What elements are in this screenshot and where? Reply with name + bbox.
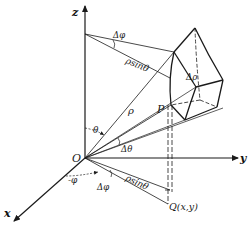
theta-label: θ bbox=[93, 125, 99, 135]
point-P-label: P bbox=[156, 103, 165, 116]
rho-label: ρ bbox=[127, 105, 134, 116]
origin-label: O bbox=[72, 152, 81, 165]
delta-phi-top-label: Δφ bbox=[112, 30, 125, 40]
neg-phi-label: -φ bbox=[68, 175, 78, 185]
delta-phi-top-arc bbox=[113, 40, 115, 48]
y-axis-label: y bbox=[239, 152, 248, 165]
point-Q-label: Q(x,y) bbox=[169, 201, 198, 212]
rho-sin-theta-bottom-label: ρsinθ bbox=[123, 172, 150, 192]
delta-phi-bottom-arc bbox=[110, 170, 112, 177]
spherical-coordinates-diagram: z y x O P Q(x,y) Δφ ρsinθ Δρ ρ θ Δθ -φ Δ… bbox=[0, 0, 249, 225]
diagram-svg: z y x O P Q(x,y) Δφ ρsinθ Δρ ρ θ Δθ -φ Δ… bbox=[0, 0, 249, 225]
x-axis-label: x bbox=[3, 207, 11, 220]
delta-phi-bottom-label: Δφ bbox=[96, 182, 109, 192]
rho-sin-theta-top-label: ρsinθ bbox=[123, 55, 150, 74]
delta-theta-arc bbox=[118, 138, 120, 145]
z-axis-label: z bbox=[71, 6, 79, 19]
delta-rho-label: Δρ bbox=[185, 72, 197, 82]
x-axis bbox=[14, 158, 85, 221]
delta-theta-label: Δθ bbox=[120, 144, 132, 154]
top-rho-sin-line-1 bbox=[85, 34, 174, 52]
